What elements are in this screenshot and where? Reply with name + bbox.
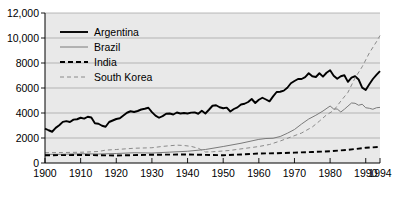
x-tick-label: 1980 (310, 168, 350, 179)
x-tick-label: 1900 (25, 168, 65, 179)
x-tick-label: 1960 (239, 168, 279, 179)
x-tick-label: 1920 (96, 168, 136, 179)
legend-label-india: India (94, 57, 117, 68)
y-tick-label: 4000 (16, 108, 39, 119)
x-tick-label: 1994 (360, 168, 400, 179)
legend-label-argentina: Argentina (94, 27, 139, 38)
x-tick-label: 1970 (274, 168, 314, 179)
x-tick-label: 1930 (132, 168, 172, 179)
x-tick-label: 1940 (168, 168, 208, 179)
y-tick-label: 6000 (16, 83, 39, 94)
y-tick-label: 10,000 (7, 33, 39, 44)
y-tick-label: 8000 (16, 58, 39, 69)
chart-figure: 0200040006000800010,00012,000 1900191019… (0, 0, 401, 200)
legend-label-south-korea: South Korea (94, 72, 152, 83)
y-tick-label: 12,000 (7, 8, 39, 19)
y-tick-label: 2000 (16, 133, 39, 144)
legend-label-brazil: Brazil (94, 42, 120, 53)
x-tick-label: 1950 (203, 168, 243, 179)
x-tick-label: 1910 (61, 168, 101, 179)
